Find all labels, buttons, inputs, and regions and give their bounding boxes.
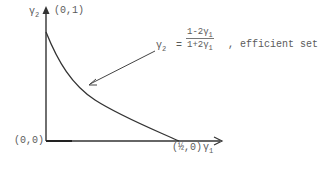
point-top-label: (0,1) [54,5,84,16]
pointer-line [90,51,155,84]
equation-fraction: 1-2γ1 1+2γ1 [186,27,214,50]
equation-denominator: 1+2γ1 [187,39,213,50]
point-origin-label: (0,0) [14,135,44,146]
y-axis-arrowhead-icon [43,6,50,14]
pointer-arrowhead-icon [89,79,97,85]
y-axis-label: γ2 [29,6,39,17]
x-axis-label: γ1 [203,142,213,153]
point-right-label: (½,0) [172,142,202,153]
equation-suffix: , efficient set [228,39,318,50]
equation-lhs: γ2 [156,40,166,51]
equation-equals: = [176,40,182,51]
equation-numerator: 1-2γ1 [186,27,214,39]
diagram-canvas [0,0,321,169]
